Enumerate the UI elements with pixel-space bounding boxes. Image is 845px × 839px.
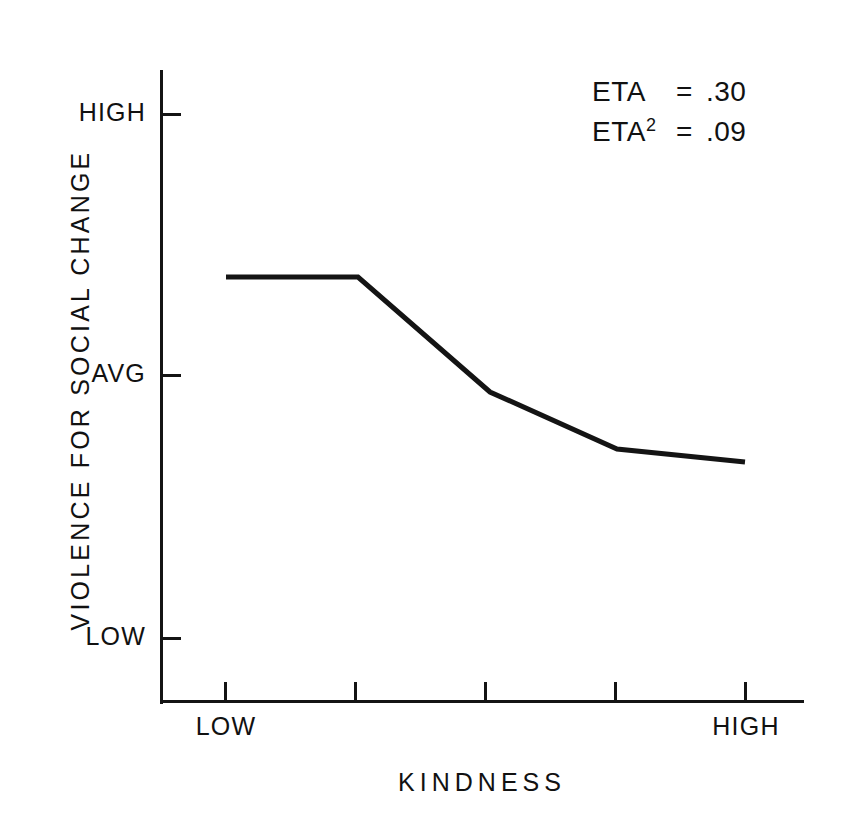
x-axis-line: [160, 700, 804, 703]
y-tick-avg: [162, 374, 181, 377]
eta-term-2: ETA2: [592, 112, 676, 152]
eta-annotation-row-2: ETA2 = .09: [592, 112, 746, 152]
x-axis-title: KINDNESS: [160, 768, 804, 797]
x-tick-2: [354, 682, 357, 701]
eta-term-2-base: ETA: [592, 116, 646, 147]
chart-figure: HIGH AVG LOW LOW HIGH VIOLENCE FOR SOCIA…: [0, 0, 845, 839]
eta-term-1: ETA: [592, 72, 676, 112]
eta-value-1: .30: [706, 72, 746, 112]
eta-superscript-2: 2: [646, 115, 657, 135]
eta-annotation: ETA = .30 ETA2 = .09: [592, 72, 746, 152]
x-tick-5: [744, 682, 747, 701]
eta-annotation-row-1: ETA = .30: [592, 72, 746, 112]
data-series-line: [226, 277, 745, 462]
eta-value-2: .09: [706, 112, 746, 152]
y-axis-line: [160, 70, 163, 704]
x-axis-title-text: KINDNESS: [398, 768, 566, 796]
y-axis-title-text: VIOLENCE FOR SOCIAL CHANGE: [66, 150, 95, 631]
x-tick-4: [614, 682, 617, 701]
y-axis-title: VIOLENCE FOR SOCIAL CHANGE: [60, 110, 100, 670]
x-tick-label-high: HIGH: [666, 712, 826, 741]
eta-equals-2: =: [676, 112, 706, 152]
eta-equals-1: =: [676, 72, 706, 112]
y-tick-low: [162, 637, 181, 640]
x-tick-3: [484, 682, 487, 701]
x-tick-1: [224, 682, 227, 701]
y-tick-high: [162, 113, 181, 116]
x-tick-label-low: LOW: [146, 712, 306, 741]
